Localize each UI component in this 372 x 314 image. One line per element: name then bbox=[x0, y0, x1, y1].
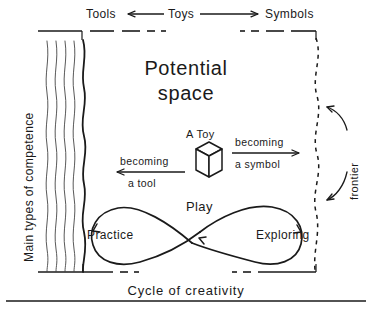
cube-icon bbox=[196, 142, 222, 177]
axis-label-toys: Toys bbox=[168, 7, 194, 21]
left-axis-label: Main types of competence bbox=[22, 112, 36, 262]
arrow-right-icon bbox=[200, 11, 258, 17]
right-axis-label: frontier bbox=[348, 163, 360, 200]
play-crossing-arrowhead bbox=[199, 237, 206, 244]
toy-label: A Toy bbox=[186, 128, 215, 140]
page-title-line2: space bbox=[0, 81, 372, 106]
practice-label: Practice bbox=[87, 228, 134, 242]
becoming-a-symbol-line2: a symbol bbox=[235, 158, 280, 170]
axis-label-symbols: Symbols bbox=[265, 7, 314, 21]
page-title: Potential space bbox=[0, 56, 372, 106]
axis-label-tools: Tools bbox=[86, 7, 116, 21]
arrow-left-icon bbox=[128, 11, 164, 17]
becoming-a-tool-arrow bbox=[117, 169, 185, 175]
exploring-label: Exploring bbox=[256, 228, 310, 242]
becoming-a-tool-line2: a tool bbox=[128, 177, 156, 189]
diagram-linework bbox=[0, 0, 372, 314]
becoming-a-symbol-line1: becoming bbox=[235, 136, 284, 148]
play-label: Play bbox=[186, 199, 213, 214]
becoming-a-symbol-arrow bbox=[232, 150, 299, 156]
page-title-line1: Potential bbox=[144, 57, 227, 79]
becoming-a-tool-line1: becoming bbox=[120, 155, 169, 167]
bottom-axis-label: Cycle of creativity bbox=[0, 283, 372, 298]
frontier-pointer-arrows bbox=[327, 106, 347, 200]
potential-space-diagram: Tools Toys Symbols Potential space A Toy… bbox=[0, 0, 372, 314]
